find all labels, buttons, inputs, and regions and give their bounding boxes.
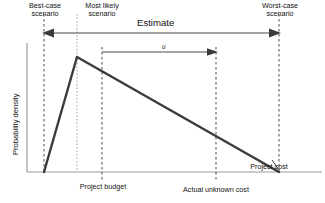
figure-canvas xyxy=(0,0,325,203)
label-estimate: Estimate xyxy=(137,18,174,28)
label-project-cost: Project cost xyxy=(240,163,298,171)
label-best-case-scenario: Best-case scenario xyxy=(20,2,70,19)
density-curve-rising-limb xyxy=(44,57,77,172)
label-actual-unknown-cost: Actual unknown cost xyxy=(174,186,258,194)
y-axis-label: Probability density xyxy=(11,93,20,155)
label-project-budget: Project budget xyxy=(72,183,134,191)
label-u-symbol: u xyxy=(162,43,166,51)
probability-density-figure: Probability density Best-case scenario M… xyxy=(0,0,325,203)
density-curve-falling-limb xyxy=(77,57,279,172)
label-most-likely-scenario: Most likely scenario xyxy=(76,2,128,19)
label-worst-case-scenario: Worst-case scenario xyxy=(254,2,306,19)
